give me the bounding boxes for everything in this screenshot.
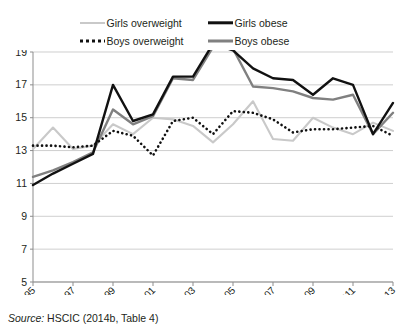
line-swatch-icon-boys-obese	[208, 36, 233, 46]
y-tick-label: 15	[15, 111, 27, 123]
x-tick-label: 2013	[374, 284, 398, 295]
source-text: HSCIC (2014b, Table 4)	[47, 312, 158, 324]
line-swatch-icon-girls-obese	[208, 18, 233, 28]
chart-legend: Girls overweight Girls obese Boys overwe…	[0, 14, 405, 50]
legend-row-1: Girls overweight Girls obese	[0, 14, 405, 32]
x-tick-label: 2005	[214, 284, 238, 295]
cropped-caption-strip	[0, 0, 405, 13]
legend-label-boys-obese: Boys obese	[235, 35, 290, 47]
x-tick-label: 1997	[54, 284, 78, 295]
legend-item-boys-obese: Boys obese	[208, 35, 326, 47]
source-prefix: Source:	[8, 312, 44, 324]
x-tick-label: 2011	[334, 284, 357, 295]
y-tick-label: 13	[15, 144, 27, 156]
y-tick-label: 11	[16, 177, 27, 189]
dotted-line-swatch-icon-boys-overweight	[80, 36, 105, 46]
y-tick-label: 19	[15, 50, 27, 58]
x-tick-label: 2009	[294, 284, 318, 295]
series-line-girls-overweight	[33, 101, 393, 149]
x-tick-label: 2003	[174, 284, 198, 295]
legend-row-2: Boys overweight Boys obese	[0, 32, 405, 50]
y-tick-label: 17	[15, 78, 27, 90]
x-tick-label: 2007	[254, 284, 278, 295]
y-tick-label: 5	[21, 276, 27, 288]
legend-label-girls-overweight: Girls overweight	[107, 17, 182, 29]
y-tick-label: 7	[21, 243, 27, 255]
legend-item-girls-obese: Girls obese	[208, 17, 326, 29]
gridlines-group	[33, 52, 393, 282]
y-axis-group: 5791113151719	[15, 50, 33, 288]
source-note: Source: HSCIC (2014b, Table 4)	[8, 312, 158, 324]
x-tick-label: 1999	[94, 284, 118, 295]
x-tick-label: 2001	[134, 284, 158, 295]
x-axis-group: 1995199719992001200320052007200920112013	[14, 282, 398, 295]
figure-root: Girls overweight Girls obese Boys overwe…	[0, 0, 405, 334]
plot-area: 5791113151719 19951997199920012003200520…	[0, 50, 405, 295]
legend-item-girls-overweight: Girls overweight	[80, 17, 208, 29]
legend-label-boys-overweight: Boys overweight	[107, 35, 184, 47]
legend-label-girls-obese: Girls obese	[235, 17, 288, 29]
line-chart: 5791113151719 19951997199920012003200520…	[0, 50, 405, 295]
y-tick-label: 9	[21, 210, 27, 222]
legend-item-boys-overweight: Boys overweight	[80, 35, 208, 47]
line-swatch-icon-girls-overweight	[80, 18, 105, 28]
